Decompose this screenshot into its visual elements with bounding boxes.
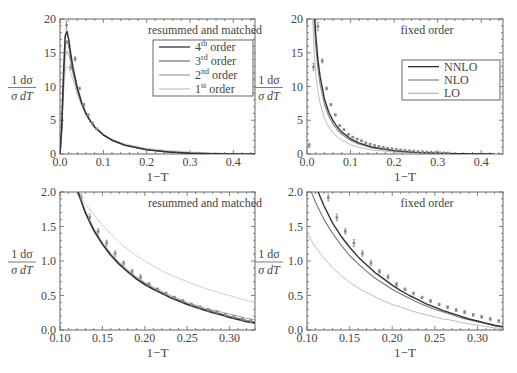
data-point bbox=[408, 149, 411, 152]
data-point bbox=[216, 311, 219, 314]
data-point bbox=[91, 122, 94, 125]
y-tick-label: 0.0 bbox=[288, 323, 303, 337]
x-tick-label: 0.30 bbox=[467, 331, 488, 345]
x-axis-label: 1−T bbox=[147, 169, 169, 184]
y-tick-label: 20 bbox=[291, 12, 303, 26]
data-point bbox=[360, 140, 363, 143]
data-point bbox=[182, 300, 185, 303]
panel-title: fixed order bbox=[401, 196, 454, 210]
y-tick-label: 2.0 bbox=[41, 185, 56, 199]
data-point bbox=[356, 138, 359, 141]
data-point bbox=[83, 103, 86, 106]
data-point bbox=[344, 229, 347, 235]
data-point bbox=[412, 292, 415, 295]
data-point bbox=[447, 152, 450, 155]
data-point bbox=[387, 275, 390, 279]
data-point bbox=[373, 144, 376, 147]
data-point bbox=[317, 22, 320, 30]
panel-title: fixed order bbox=[401, 23, 454, 37]
y-tick-label: 0.5 bbox=[41, 289, 56, 303]
data-point bbox=[429, 300, 432, 303]
data-point bbox=[395, 282, 398, 286]
series-line-nlo bbox=[311, 192, 503, 327]
data-point bbox=[224, 313, 227, 316]
x-tick-label: 0.15 bbox=[92, 331, 113, 345]
data-point bbox=[312, 64, 315, 71]
x-tick-label: 0.15 bbox=[339, 331, 360, 345]
y-tick-label: 0 bbox=[50, 147, 56, 161]
data-point bbox=[343, 128, 346, 131]
data-point bbox=[347, 133, 350, 136]
data-point bbox=[321, 59, 324, 63]
data-point bbox=[365, 142, 368, 145]
legend-label: NNLO bbox=[444, 60, 478, 74]
data-point bbox=[446, 306, 449, 309]
data-point bbox=[338, 124, 341, 127]
x-tick-label: 0.3 bbox=[183, 155, 198, 169]
plot-frame bbox=[60, 192, 255, 330]
data-point bbox=[336, 214, 339, 221]
data-point bbox=[78, 87, 81, 90]
y-axis-label-numerator: 1 dσ bbox=[11, 73, 33, 87]
data-point bbox=[439, 151, 442, 154]
y-tick-label: 1.5 bbox=[288, 220, 303, 234]
panel-title: resummed and matched bbox=[148, 23, 262, 37]
y-tick-label: 20 bbox=[44, 12, 56, 26]
y-tick-label: 10 bbox=[291, 80, 303, 94]
data-point bbox=[463, 311, 466, 314]
legend-label: 1st order bbox=[195, 81, 235, 96]
y-axis-label-numerator: 1 dσ bbox=[258, 247, 280, 261]
data-point bbox=[480, 316, 483, 319]
data-point bbox=[391, 148, 394, 151]
legend: 4th order3rd order2nd order1st order bbox=[153, 39, 253, 96]
data-point bbox=[74, 57, 77, 61]
data-point bbox=[351, 136, 354, 139]
x-tick-label: 0.3 bbox=[430, 155, 445, 169]
y-tick-label: 15 bbox=[44, 46, 56, 60]
data-point bbox=[122, 261, 125, 265]
y-tick-label: 5 bbox=[297, 113, 303, 127]
data-point bbox=[404, 149, 407, 152]
data-point bbox=[430, 151, 433, 154]
x-tick-label: 0.1 bbox=[343, 155, 358, 169]
data-point bbox=[417, 150, 420, 153]
data-point bbox=[455, 309, 458, 312]
x-tick-label: 0.4 bbox=[226, 155, 241, 169]
x-tick-label: 0.2 bbox=[387, 155, 402, 169]
y-tick-label: 5 bbox=[50, 113, 56, 127]
data-point bbox=[378, 269, 381, 273]
data-point bbox=[156, 288, 159, 291]
data-point bbox=[96, 128, 99, 131]
y-axis-label-denominator: σ dT bbox=[258, 89, 281, 103]
data-point bbox=[382, 146, 385, 149]
y-tick-label: 0.5 bbox=[288, 289, 303, 303]
data-point bbox=[497, 320, 500, 323]
x-tick-label: 0.4 bbox=[474, 155, 489, 169]
data-point bbox=[395, 148, 398, 151]
data-point bbox=[207, 309, 210, 312]
x-tick-label: 0.25 bbox=[424, 331, 445, 345]
data-point bbox=[114, 251, 117, 257]
thrust-distribution-figure: 0.00.10.20.30.4051015201−T1 dσσ dTresumm… bbox=[0, 0, 517, 373]
y-axis-label-denominator: σ dT bbox=[11, 263, 34, 277]
data-point bbox=[434, 151, 437, 154]
plot-frame bbox=[307, 192, 503, 330]
x-axis-label: 1−T bbox=[394, 345, 416, 360]
data-point bbox=[386, 147, 389, 150]
legend-label: LO bbox=[444, 86, 460, 100]
data-point bbox=[199, 306, 202, 309]
x-axis-label: 1−T bbox=[394, 169, 416, 184]
data-point bbox=[412, 150, 415, 153]
data-point bbox=[425, 151, 428, 154]
data-point bbox=[173, 296, 176, 299]
y-axis-label-denominator: σ dT bbox=[11, 89, 34, 103]
data-point bbox=[327, 194, 330, 201]
data-point bbox=[353, 240, 356, 247]
data-point bbox=[105, 240, 108, 246]
y-tick-label: 2.0 bbox=[288, 185, 303, 199]
y-axis-label-numerator: 1 dσ bbox=[258, 73, 280, 87]
data-point bbox=[370, 260, 373, 266]
data-point bbox=[378, 145, 381, 148]
data-point bbox=[139, 275, 142, 279]
x-tick-label: 0.2 bbox=[139, 155, 154, 169]
